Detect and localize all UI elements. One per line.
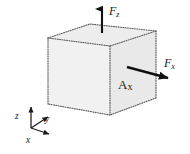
force-x-label: Fx bbox=[164, 57, 175, 69]
force-z-subscript: z bbox=[116, 10, 119, 19]
force-z-label: Fz bbox=[109, 5, 120, 17]
area-x-subscript: x bbox=[127, 81, 132, 92]
area-x-symbol: A bbox=[118, 77, 127, 92]
axis-z-label: z bbox=[15, 112, 19, 122]
physics-figure-cube-forces: Fz Fx Ax z y x bbox=[0, 0, 190, 154]
cube-face-front bbox=[48, 38, 110, 115]
axis-x-label: x bbox=[26, 136, 30, 146]
force-x-subscript: x bbox=[171, 62, 175, 71]
axis-y-label: y bbox=[45, 115, 49, 125]
cube-diagram-canvas bbox=[0, 0, 190, 154]
axis-x-line bbox=[31, 128, 49, 134]
area-x-label: Ax bbox=[118, 78, 132, 91]
